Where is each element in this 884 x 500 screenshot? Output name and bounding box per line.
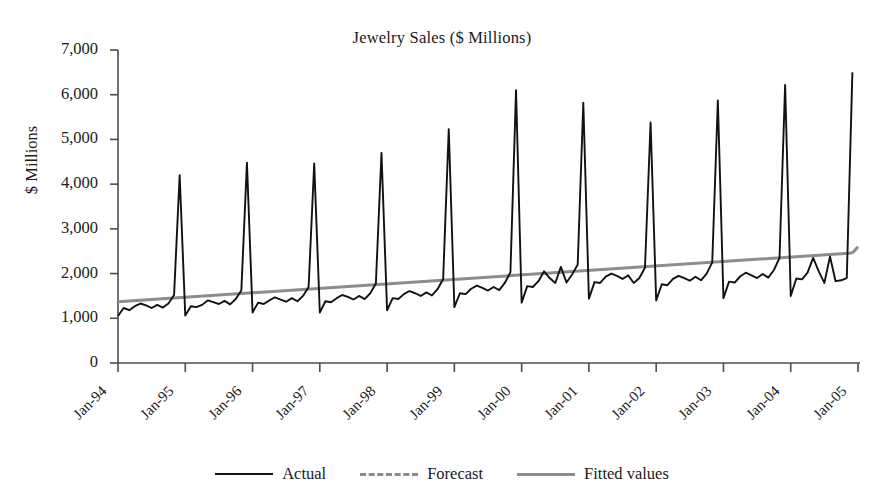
y-tick-label: 1,000 <box>22 307 98 327</box>
legend-key-fitted <box>517 473 575 476</box>
chart-legend: Actual Forecast Fitted values <box>0 464 884 484</box>
y-tick-label: 6,000 <box>22 84 98 104</box>
legend-label-forecast: Forecast <box>427 464 483 484</box>
legend-label-fitted: Fitted values <box>584 464 669 484</box>
legend-item-actual: Actual <box>215 464 326 484</box>
y-tick-label: 4,000 <box>22 173 98 193</box>
y-tick-label: 3,000 <box>22 218 98 238</box>
series-forecast <box>852 247 858 253</box>
y-tick-marks <box>110 50 118 363</box>
legend-label-actual: Actual <box>282 464 326 484</box>
legend-key-forecast <box>360 473 418 476</box>
x-tick-marks <box>118 363 858 372</box>
y-tick-label: 2,000 <box>22 263 98 283</box>
plot-area <box>0 0 884 500</box>
legend-item-fitted: Fitted values <box>517 464 669 484</box>
series-group <box>118 72 858 316</box>
legend-key-actual <box>215 473 273 475</box>
y-tick-label: 7,000 <box>22 39 98 59</box>
axis-group <box>110 50 860 372</box>
y-tick-label: 5,000 <box>22 128 98 148</box>
series-actual <box>118 72 852 316</box>
series-fitted-values <box>118 253 852 302</box>
legend-item-forecast: Forecast <box>360 464 483 484</box>
y-tick-label: 0 <box>22 352 98 372</box>
chart-figure: Jewelry Sales ($ Millions) $ Millions 7,… <box>0 0 884 500</box>
